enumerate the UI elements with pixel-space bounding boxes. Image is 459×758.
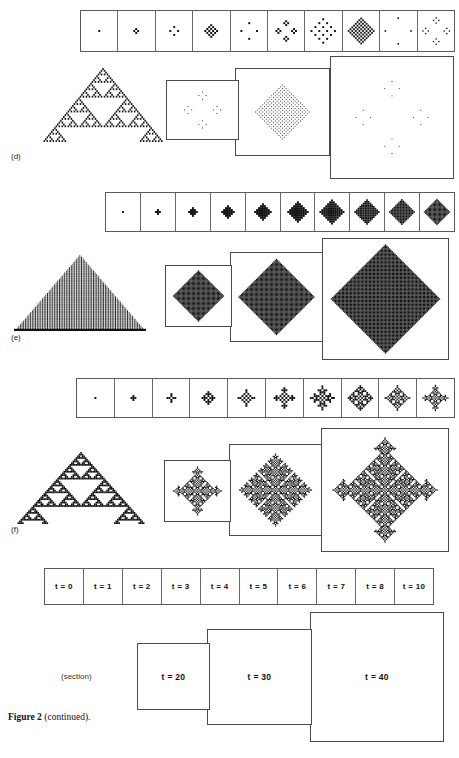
legend-cell: t = 2 <box>123 569 162 604</box>
panel-d-t30 <box>235 68 330 156</box>
legend-cell: t = 0 <box>45 569 84 604</box>
strip-cell <box>342 379 380 417</box>
strip-cell <box>304 379 342 417</box>
legend-box-t40: t = 40 <box>310 612 444 742</box>
legend-cell: t = 7 <box>317 569 356 604</box>
legend-cell: t = 5 <box>240 569 279 604</box>
section-label-d: (d) <box>11 152 21 161</box>
strip-cell <box>246 193 281 231</box>
strip-section-f <box>76 378 455 418</box>
panel-f-t20 <box>164 460 231 522</box>
strip-cell <box>380 11 417 51</box>
strip-cell <box>176 193 211 231</box>
figure-page: (d) (e) (f) t = 0t = 1t = 2t = 3t = 4t =… <box>0 0 459 758</box>
strip-cell <box>343 11 380 51</box>
legend-timestep-row: t = 0t = 1t = 2t = 3t = 4t = 5t = 6t = 7… <box>44 568 434 605</box>
strip-cell <box>156 11 193 51</box>
section-label-f: (f) <box>11 525 19 534</box>
strip-cell <box>81 11 118 51</box>
strip-section-e <box>105 192 455 232</box>
panel-e-t20 <box>165 265 232 327</box>
strip-cell <box>305 11 342 51</box>
strip-cell <box>315 193 350 231</box>
strip-section-d <box>80 10 455 52</box>
section-word-label: (section) <box>61 672 92 681</box>
caption-figure-number: Figure 2 <box>8 712 42 722</box>
figure-caption: Figure 2 (continued). <box>8 712 90 722</box>
legend-cell: t = 4 <box>201 569 240 604</box>
strip-cell <box>228 379 266 417</box>
spacetime-triangle-d <box>42 68 164 142</box>
strip-cell <box>420 193 454 231</box>
legend-cell: t = 1 <box>84 569 123 604</box>
strip-cell <box>385 193 420 231</box>
panel-f-t40 <box>321 428 449 552</box>
panel-e-t40 <box>322 238 449 360</box>
caption-text: (continued). <box>42 712 91 722</box>
strip-cell <box>141 193 176 231</box>
strip-cell <box>281 193 316 231</box>
strip-cell <box>190 379 228 417</box>
panel-f-t30 <box>229 444 322 536</box>
panel-d-t20 <box>166 80 239 140</box>
strip-cell <box>211 193 246 231</box>
legend-cell: t = 8 <box>356 569 395 604</box>
strip-cell <box>266 379 304 417</box>
strip-cell <box>77 379 115 417</box>
spacetime-triangle-e <box>14 255 146 331</box>
legend-cell: t = 10 <box>395 569 433 604</box>
strip-cell <box>418 11 454 51</box>
strip-cell <box>231 11 268 51</box>
section-label-e: (e) <box>11 333 21 342</box>
strip-cell <box>115 379 153 417</box>
strip-cell <box>379 379 417 417</box>
strip-cell <box>268 11 305 51</box>
panel-e-t30 <box>230 252 323 342</box>
strip-cell <box>153 379 191 417</box>
strip-cell <box>193 11 230 51</box>
strip-cell <box>118 11 155 51</box>
strip-cell <box>417 379 454 417</box>
strip-cell <box>106 193 141 231</box>
spacetime-triangle-f <box>16 452 146 524</box>
legend-cell: t = 3 <box>162 569 201 604</box>
legend-box-t30: t = 30 <box>207 629 312 725</box>
legend-box-t20: t = 20 <box>137 643 210 710</box>
strip-cell <box>350 193 385 231</box>
legend-cell: t = 6 <box>278 569 317 604</box>
panel-d-t40 <box>330 56 454 179</box>
